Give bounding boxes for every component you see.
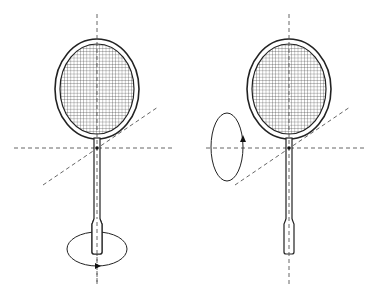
rotation-arrowhead-icon	[240, 135, 246, 142]
racket-panel-right	[206, 14, 364, 285]
pivot-point	[95, 146, 99, 150]
rotation-arrowhead-icon	[95, 263, 101, 269]
pivot-point	[287, 146, 291, 150]
rotation-arrow-ellipse	[211, 113, 243, 181]
racket-rotation-diagram	[0, 0, 369, 295]
racket-panel-left	[14, 14, 172, 285]
